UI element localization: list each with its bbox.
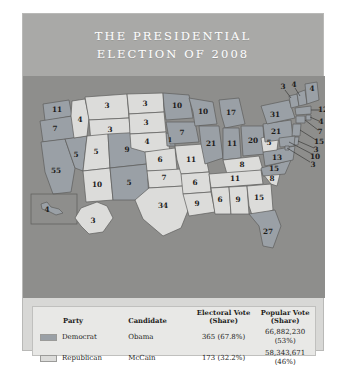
ev-label-ia: 7 (179, 128, 184, 137)
cell-candidate-mccain: McCain (128, 348, 192, 369)
ev-label-ar: 6 (192, 178, 197, 187)
ev-label-ct: 7 (317, 127, 322, 136)
header-electoral-line1: Electoral Vote (197, 309, 250, 317)
cell-candidate-obama: Obama (128, 327, 192, 348)
us-electoral-map: 11 7 55 5 4 3 3 5 10 9 5 3 3 4 1 6 7 34 … (23, 76, 325, 298)
figure-title-band: THE PRESIDENTIAL ELECTION OF 2008 (23, 14, 323, 76)
ev-label-la: 9 (194, 199, 199, 208)
header-electoral-vote: Electoral Vote (Share) (192, 307, 256, 327)
ev-label-pa: 21 (271, 127, 281, 136)
cell-electoral-obama: 365 (67.8%) (192, 327, 256, 348)
ev-label-fl: 27 (263, 227, 273, 236)
ev-label-ri: 4 (318, 117, 323, 126)
ev-label-ne: 4 (144, 137, 149, 146)
state-ne[interactable] (130, 132, 170, 152)
ev-label-mi: 17 (226, 108, 236, 117)
ev-label-wy: 3 (107, 125, 112, 134)
header-electoral-line2: (Share) (209, 317, 238, 325)
ev-label-al: 9 (235, 195, 240, 204)
figure-panel: THE PRESIDENTIAL ELECTION OF 2008 (22, 13, 324, 351)
ev-label-in: 11 (227, 139, 237, 148)
cell-electoral-mccain: 173 (32.2%) (192, 348, 256, 369)
page-title-line-1: THE PRESIDENTIAL (95, 27, 251, 45)
cell-popular-mccain: 58,343,671 (46%) (255, 348, 315, 369)
header-popular-vote: Popular Vote (Share) (255, 307, 315, 327)
ev-label-wi: 10 (198, 107, 208, 116)
state-md[interactable] (279, 136, 295, 147)
ev-label-id: 4 (77, 115, 82, 124)
ev-label-tx: 34 (158, 201, 168, 210)
label-party-republican: Republican (62, 354, 102, 362)
ev-label-ma: 12 (318, 105, 325, 114)
page-title-line-2: ELECTION OF 2008 (97, 45, 250, 63)
ev-label-sc: 8 (269, 174, 274, 183)
state-nj[interactable] (292, 124, 301, 136)
ev-label-sd: 3 (143, 118, 148, 127)
ev-label-nm: 5 (126, 178, 131, 187)
ev-label-va: 13 (272, 153, 282, 162)
ev-label-nd: 3 (142, 99, 147, 108)
state-tx[interactable] (135, 186, 189, 236)
state-ct[interactable] (296, 116, 305, 123)
ev-label-mt: 3 (104, 101, 109, 110)
header-popular-line1: Popular Vote (261, 309, 310, 317)
ev-label-ks: 6 (157, 155, 162, 164)
table-row: Democrat Obama 365 (67.8%) 66,882,230 (5… (33, 327, 315, 348)
ev-label-oh: 20 (248, 136, 258, 145)
header-party: Party (33, 307, 128, 327)
table-header-row: Party Candidate Electoral Vote (Share) P… (33, 307, 315, 327)
legend-panel: Party Candidate Electoral Vote (Share) P… (32, 306, 316, 356)
ev-label-wa: 11 (52, 105, 62, 114)
ev-label-vt: 3 (280, 82, 285, 91)
ev-label-az: 10 (92, 180, 102, 189)
ev-label-mn: 10 (172, 101, 182, 110)
map-svg: 11 7 55 5 4 3 3 5 10 9 5 3 3 4 1 6 7 34 … (23, 76, 325, 298)
ev-label-ok: 7 (161, 173, 166, 182)
results-table: Party Candidate Electoral Vote (Share) P… (33, 307, 315, 369)
header-candidate: Candidate (128, 307, 192, 327)
ev-label-ky: 8 (239, 160, 244, 169)
label-party-democrat: Democrat (62, 333, 97, 341)
cell-popular-obama: 66,882,230 (53%) (255, 327, 315, 348)
ev-label-ny: 31 (270, 110, 280, 119)
cell-party-republican: Republican (33, 348, 128, 369)
ev-label-mo: 11 (186, 155, 196, 164)
header-popular-line2: (Share) (271, 317, 300, 325)
ev-label-or: 7 (52, 124, 57, 133)
ev-label-nh: 4 (291, 80, 296, 89)
ev-label-tn: 11 (230, 174, 240, 183)
ev-label-wv: 5 (266, 138, 271, 147)
ev-label-ga: 15 (254, 193, 264, 202)
ev-label-co: 9 (124, 145, 129, 154)
ev-label-ak: 3 (90, 216, 95, 225)
ev-label-ne2: 1 (168, 136, 172, 144)
swatch-democrat (40, 334, 57, 341)
ev-label-me: 4 (309, 84, 314, 93)
cell-party-democrat: Democrat (33, 327, 128, 348)
ev-label-ca: 55 (51, 166, 61, 175)
ev-label-hi: 4 (44, 205, 49, 214)
swatch-republican (40, 355, 57, 362)
ev-label-ms: 6 (217, 195, 222, 204)
ev-label-il: 21 (206, 139, 216, 148)
state-ma[interactable] (295, 106, 311, 115)
state-ri[interactable] (306, 115, 311, 120)
ev-label-ut: 5 (93, 147, 98, 156)
ev-label-dc: 3 (310, 160, 315, 169)
table-row: Republican McCain 173 (32.2%) 58,343,671… (33, 348, 315, 369)
ev-label-nv: 5 (73, 150, 78, 159)
ev-label-nc: 15 (269, 164, 279, 173)
